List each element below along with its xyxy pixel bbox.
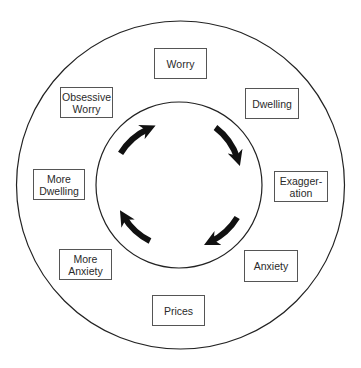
node-dwelling: Dwelling (245, 88, 299, 119)
cycle-arrow-upper-right-icon (216, 128, 238, 159)
inner-circle (96, 102, 262, 268)
cycle-arrow-upper-left-icon (121, 129, 149, 154)
node-exaggeration: Exagger- ation (274, 171, 328, 202)
cycle-arrow-lower-left-icon (124, 217, 150, 241)
node-worry: Worry (154, 48, 207, 79)
node-prices: Prices (152, 295, 205, 326)
node-more-anxiety: More Anxiety (59, 249, 112, 280)
node-anxiety: Anxiety (244, 250, 298, 282)
node-more-dwelling: More Dwelling (33, 169, 85, 200)
node-obsessive-worry: Obsessive Worry (60, 87, 113, 118)
cycle-arrow-lower-right-icon (211, 218, 237, 242)
